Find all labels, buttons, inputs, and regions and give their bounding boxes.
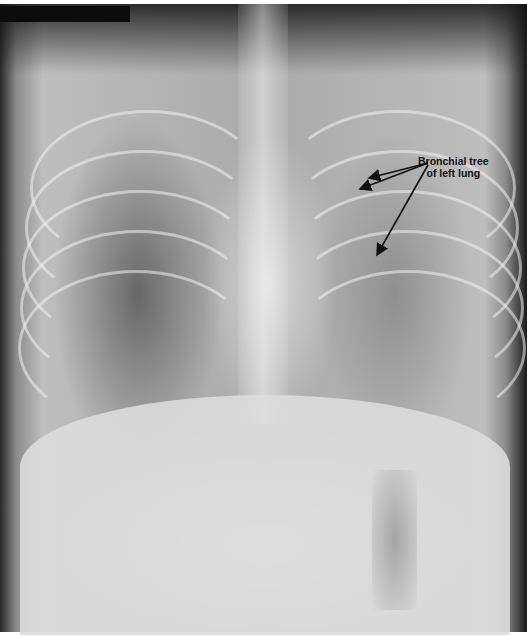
annotation-arrows bbox=[0, 0, 527, 636]
annotation-line-1: Bronchial tree bbox=[418, 155, 489, 167]
annotation-label: Bronchial tree of left lung bbox=[418, 155, 489, 179]
annotation-line-2: of left lung bbox=[418, 167, 489, 179]
